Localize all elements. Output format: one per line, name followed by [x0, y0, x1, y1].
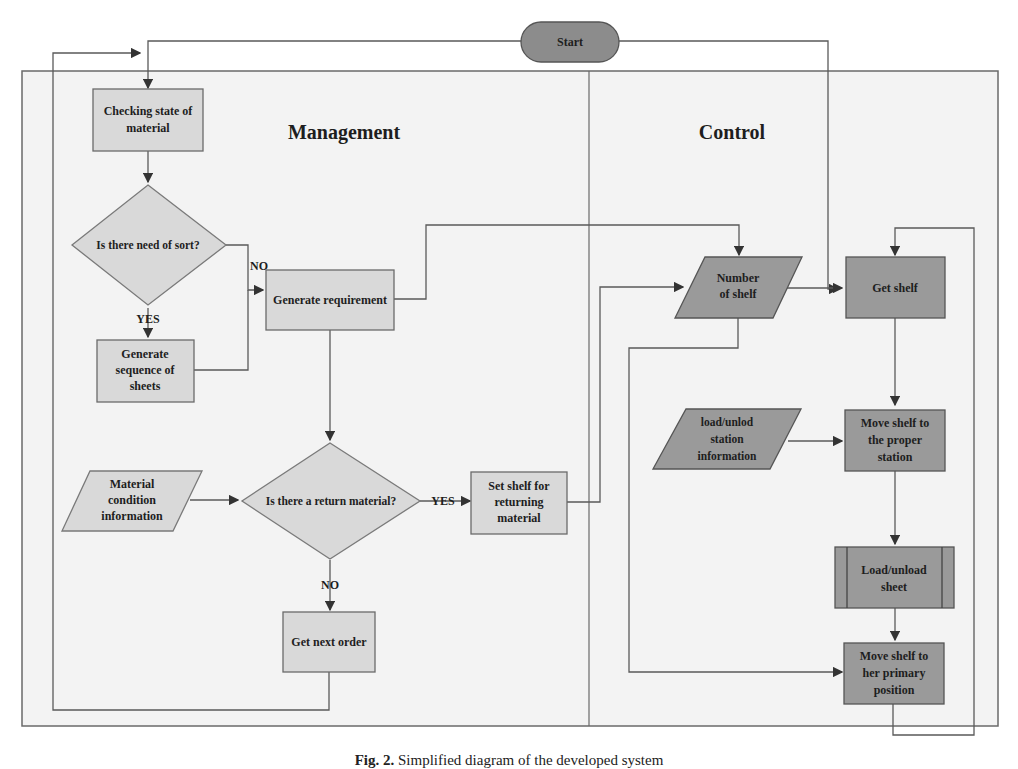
svg-text:Material: Material	[110, 477, 155, 491]
svg-text:Load/unload: Load/unload	[861, 563, 927, 577]
svg-text:sequence of: sequence of	[116, 363, 176, 377]
svg-text:Number: Number	[717, 271, 760, 285]
caption-prefix: Fig. 2.	[355, 752, 395, 768]
svg-text:position: position	[874, 683, 915, 697]
svg-text:Generate: Generate	[121, 347, 169, 361]
svg-text:Checking state of: Checking state of	[104, 104, 194, 118]
svg-text:returning: returning	[494, 495, 543, 509]
svg-text:Set shelf for: Set shelf for	[488, 479, 550, 493]
node-generate-requirement: Generate requirement	[266, 270, 394, 330]
process-load-unload-sheet: Load/unload sheet	[835, 547, 954, 608]
svg-text:station: station	[878, 450, 913, 464]
svg-text:condition: condition	[108, 493, 156, 507]
node-generate-sequence: Generate sequence of sheets	[97, 340, 194, 402]
svg-text:material: material	[497, 511, 541, 525]
edge-label-no-return: NO	[321, 578, 339, 592]
svg-text:Start: Start	[557, 35, 583, 49]
svg-text:Generate requirement: Generate requirement	[273, 293, 387, 307]
lane-title-management: Management	[288, 121, 401, 144]
svg-text:Get shelf: Get shelf	[872, 281, 919, 295]
figure-caption: Fig. 2. Simplified diagram of the develo…	[0, 752, 1018, 769]
caption-text: Simplified diagram of the developed syst…	[398, 752, 663, 768]
svg-text:Move shelf to: Move shelf to	[860, 649, 929, 663]
svg-text:Is there need of sort?: Is there need of sort?	[96, 239, 200, 251]
svg-text:Get next order: Get next order	[291, 635, 367, 649]
svg-text:information: information	[698, 450, 757, 462]
svg-text:her primary: her primary	[863, 666, 926, 680]
edge-label-no-sort: NO	[250, 259, 268, 273]
svg-text:material: material	[126, 121, 170, 135]
svg-text:information: information	[101, 509, 163, 523]
svg-text:sheets: sheets	[130, 379, 161, 393]
svg-text:sheet: sheet	[881, 580, 907, 594]
svg-text:station: station	[710, 433, 744, 445]
node-get-shelf: Get shelf	[846, 257, 945, 318]
node-set-shelf: Set shelf for returning material	[471, 472, 567, 534]
svg-text:load/unlod: load/unlod	[701, 416, 754, 428]
node-move-shelf-proper: Move shelf to the proper station	[845, 410, 945, 471]
start-terminator: Start	[521, 22, 619, 62]
node-move-shelf-primary: Move shelf to her primary position	[844, 643, 944, 704]
svg-text:of shelf: of shelf	[720, 287, 758, 301]
node-checking-state: Checking state of material	[93, 89, 203, 151]
edge-label-yes-return: YES	[431, 494, 455, 508]
lane-title-control: Control	[699, 121, 766, 143]
edge-label-yes-sort: YES	[136, 312, 160, 326]
svg-text:Move shelf to: Move shelf to	[861, 416, 930, 430]
node-get-next-order: Get next order	[283, 612, 375, 672]
svg-text:the proper: the proper	[868, 433, 923, 447]
svg-text:Is there a return material?: Is there a return material?	[266, 495, 397, 507]
